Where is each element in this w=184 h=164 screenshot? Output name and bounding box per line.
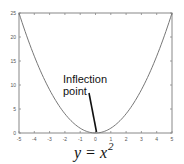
x-tick-label: 4 bbox=[155, 136, 158, 142]
x-tick-label: -1 bbox=[78, 136, 83, 142]
chart-caption: y = x bbox=[72, 144, 107, 162]
x-tick-label: 0 bbox=[94, 136, 97, 142]
annotation-arrow bbox=[89, 93, 97, 132]
x-tick-label: -4 bbox=[32, 136, 37, 142]
x-tick-label: -2 bbox=[63, 136, 68, 142]
y-tick-label: 10 bbox=[10, 82, 16, 88]
y-tick-label: 25 bbox=[10, 10, 16, 16]
y-tick-label: 5 bbox=[13, 106, 16, 112]
annotation-label-line2: point bbox=[63, 85, 87, 97]
y-tick-label: 0 bbox=[13, 130, 16, 136]
x-tick-label: -3 bbox=[47, 136, 52, 142]
x-tick-label: 5 bbox=[171, 136, 174, 142]
parabola-chart: -5-4-3-2-1012345 0510152025 Inflection p… bbox=[0, 0, 184, 164]
y-tick-label: 20 bbox=[10, 34, 16, 40]
x-tick-label: 2 bbox=[125, 136, 128, 142]
x-tick-label: 3 bbox=[140, 136, 143, 142]
y-tick-label: 15 bbox=[10, 58, 16, 64]
chart-caption-superscript: 2 bbox=[108, 140, 114, 152]
annotation-label-line1: Inflection bbox=[63, 73, 107, 85]
x-tick-label: -5 bbox=[17, 136, 22, 142]
